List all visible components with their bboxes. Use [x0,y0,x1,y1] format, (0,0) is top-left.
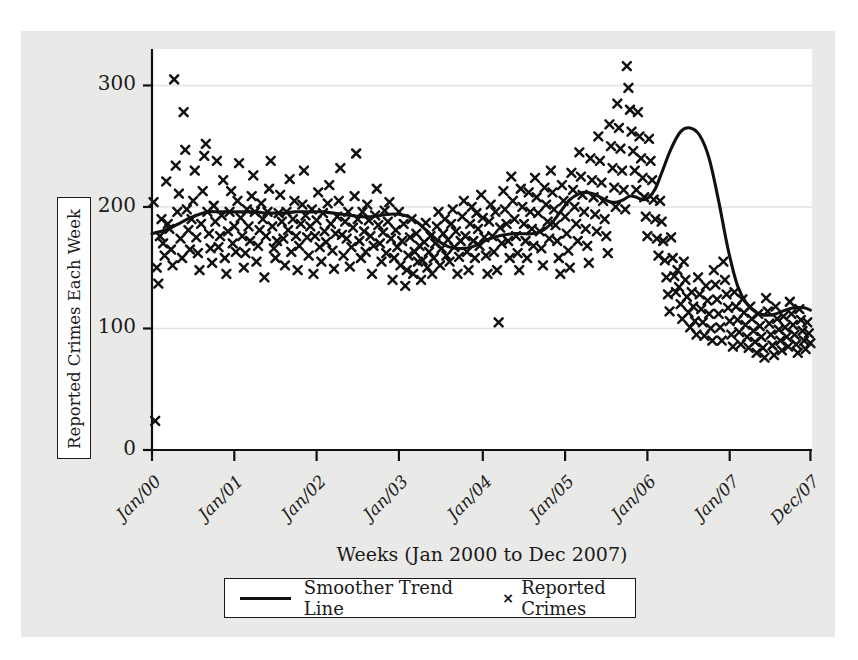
chart-legend: Smoother Trend Line × Reported Crimes [224,578,636,618]
legend-entry-trend-line: Smoother Trend Line [225,577,454,619]
legend-cross-marker-icon: × [500,590,516,606]
legend-line-swatch-icon [240,597,291,600]
legend-label-reported-crimes: Reported Crimes [521,577,635,619]
legend-label-trend-line: Smoother Trend Line [304,577,454,619]
figure-root: 0100200300 Reported Crimes Each Week Jan… [0,0,858,660]
legend-entry-reported-crimes: × Reported Crimes [454,577,635,619]
x-axis-title: Weeks (Jan 2000 to Dec 2007) [152,543,812,565]
